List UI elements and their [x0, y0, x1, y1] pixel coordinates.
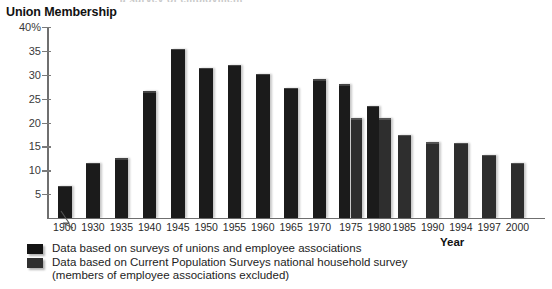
bar-1985-cps: [398, 135, 412, 218]
cropped-header-sliver: a survey of employment: [120, 0, 440, 2]
page-title: Union Membership: [6, 5, 117, 19]
legend-item-cps: Data based on Current Population Surveys…: [27, 256, 527, 270]
y-tick-label-35: 35: [29, 45, 41, 57]
bar-1975-unions: [339, 84, 351, 218]
bar-1940-unions: [143, 91, 157, 218]
y-tick-label-30: 30: [29, 69, 41, 81]
x-tick-label-1950: 1950: [195, 221, 218, 233]
legend-label-cps: Data based on Current Population Surveys…: [52, 256, 407, 268]
x-tick-label-1965: 1965: [279, 221, 302, 233]
legend-label-cps-continuation: (members of employee associations exclud…: [27, 269, 527, 283]
bar-1980-cps: [379, 118, 391, 218]
x-tick-label-1935: 1935: [110, 221, 133, 233]
x-axis-labels: 1900193019351940194519501955196019651970…: [47, 221, 547, 237]
y-tick-20: [42, 123, 51, 124]
y-tick-40%: [42, 27, 51, 28]
x-tick-label-1980: 1980: [368, 221, 391, 233]
axis-break-icon: [59, 209, 81, 229]
y-tick-30: [42, 75, 51, 76]
x-tick-label-1955: 1955: [223, 221, 246, 233]
bar-1970-unions: [313, 79, 327, 218]
x-tick-label-2000: 2000: [506, 221, 529, 233]
bar-1990-cps: [426, 142, 440, 218]
y-tick-label-10: 10: [29, 164, 41, 176]
y-tick-25: [42, 99, 51, 100]
bar-1945-unions: [171, 49, 185, 219]
y-tick-10: [42, 170, 51, 171]
legend-swatch-cps: [27, 258, 43, 268]
bar-1955-unions: [228, 65, 242, 218]
y-axis-labels: 510152025303540%: [3, 27, 41, 218]
y-tick-label-25: 25: [29, 93, 41, 105]
x-axis-line: [47, 218, 545, 219]
bar-1997-cps: [482, 155, 496, 218]
x-tick-label-1997: 1997: [477, 221, 500, 233]
bar-2000-cps: [511, 163, 525, 218]
x-tick-label-1960: 1960: [251, 221, 274, 233]
legend-item-unions: Data based on surveys of unions and empl…: [27, 242, 527, 256]
y-tick-label-5: 5: [35, 188, 41, 200]
y-tick-35: [42, 51, 51, 52]
plot-area: [47, 27, 545, 218]
legend-label-unions: Data based on surveys of unions and empl…: [52, 242, 361, 254]
bar-1950-unions: [199, 68, 213, 218]
x-tick-label-1945: 1945: [166, 221, 189, 233]
y-tick-label-20: 20: [29, 117, 41, 129]
bar-1960-unions: [256, 74, 270, 218]
bar-1980-unions: [367, 106, 379, 218]
y-tick-label-15: 15: [29, 140, 41, 152]
bar-1975-cps: [351, 118, 363, 218]
x-tick-label-1985: 1985: [393, 221, 416, 233]
x-tick-label-1975: 1975: [339, 221, 362, 233]
x-tick-label-1990: 1990: [421, 221, 444, 233]
bar-1994-cps: [454, 143, 468, 218]
bar-1935-unions: [115, 158, 129, 218]
x-tick-label-1994: 1994: [449, 221, 472, 233]
y-tick-5: [42, 194, 51, 195]
x-tick-label-1940: 1940: [138, 221, 161, 233]
bar-1965-unions: [284, 88, 298, 218]
legend: Data based on surveys of unions and empl…: [27, 242, 527, 283]
x-tick-label-1930: 1930: [81, 221, 104, 233]
bar-1930-unions: [86, 163, 100, 218]
x-tick-label-1970: 1970: [308, 221, 331, 233]
y-tick-label-40%: 40%: [19, 21, 41, 33]
y-tick-15: [42, 146, 51, 147]
legend-swatch-unions: [27, 244, 43, 254]
